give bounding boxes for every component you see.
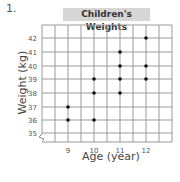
x-axis-label: Age (year)	[82, 150, 140, 163]
svg-text:9: 9	[66, 147, 70, 155]
svg-text:37: 37	[28, 104, 37, 112]
svg-text:36: 36	[28, 117, 37, 125]
svg-text:41: 41	[28, 49, 37, 57]
svg-text:35: 35	[28, 130, 37, 138]
svg-text:39: 39	[28, 76, 37, 84]
svg-text:42: 42	[28, 35, 37, 43]
svg-text:40: 40	[28, 63, 37, 71]
svg-text:12: 12	[142, 147, 151, 155]
svg-text:38: 38	[28, 90, 37, 98]
y-axis-label: Weight (kg)	[16, 55, 29, 115]
